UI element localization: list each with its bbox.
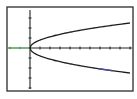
calculator-graph-screen — [0, 0, 137, 99]
screen-background — [0, 0, 137, 99]
